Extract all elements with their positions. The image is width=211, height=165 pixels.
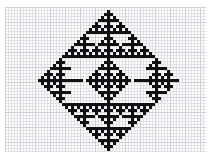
pattern-cell: [113, 142, 116, 145]
pattern-cell: [131, 124, 134, 127]
pattern-cell: [137, 118, 140, 121]
screenshot-canvas: [0, 0, 211, 165]
pattern-cell: [125, 82, 128, 85]
pattern-cell: [107, 148, 110, 151]
pattern-layer: [5, 7, 206, 152]
pattern-cell: [125, 130, 128, 133]
graph-paper-sheet: [5, 7, 206, 152]
pattern-cell: [113, 118, 116, 121]
pattern-cell: [143, 112, 146, 115]
pattern-cell: [167, 88, 170, 91]
pattern-cell: [119, 136, 122, 139]
pattern-cell: [149, 106, 152, 109]
pattern-cell: [119, 88, 122, 91]
pattern-cell: [113, 94, 116, 97]
pattern-cell: [155, 100, 158, 103]
